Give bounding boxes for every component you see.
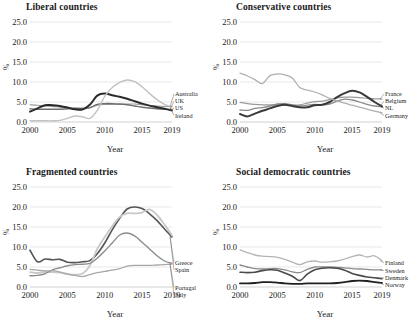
y-tick-label: 5.0 — [16, 262, 27, 272]
legend-label-italy: Italy — [175, 291, 187, 298]
y-tick-label: 15.0 — [222, 222, 237, 232]
y-tick-label: 5.0 — [226, 97, 237, 107]
chart-panel-3: Fragmented countries%Year0.05.010.015.02… — [0, 165, 210, 330]
x-tick-label: 2010 — [306, 290, 323, 300]
x-tick-label: 2000 — [232, 125, 249, 135]
series-line-norway — [240, 281, 382, 284]
legend-label-uk: UK — [175, 97, 184, 104]
x-tick-label: 2000 — [22, 125, 39, 135]
x-tick-label: 2019 — [164, 125, 181, 135]
y-tick-label: 10.0 — [222, 77, 237, 87]
series-line-ireland — [30, 80, 172, 121]
legend-label-spain: Spain — [175, 266, 189, 273]
x-tick-label: 2000 — [22, 290, 39, 300]
series-line-finland — [240, 250, 382, 265]
y-tick-label: 25.0 — [222, 17, 237, 27]
x-tick-label: 2015 — [344, 125, 361, 135]
y-tick-label: 25.0 — [222, 182, 237, 192]
y-tick-label: 25.0 — [12, 182, 27, 192]
plot-area: 0.05.010.015.020.025.0200020052010201520… — [210, 165, 420, 330]
series-line-nl — [240, 91, 382, 117]
y-tick-label: 5.0 — [226, 262, 237, 272]
x-tick-label: 2015 — [344, 290, 361, 300]
y-tick-label: 20.0 — [12, 202, 27, 212]
y-tick-label: 10.0 — [12, 77, 27, 87]
legend-label-finland: Finland — [385, 259, 405, 266]
y-tick-label: 20.0 — [222, 37, 237, 47]
x-tick-label: 2005 — [269, 125, 286, 135]
legend-label-us: US — [175, 104, 183, 111]
legend-label-norway: Norway — [385, 281, 406, 288]
x-tick-label: 2015 — [134, 125, 151, 135]
x-tick-label: 2010 — [96, 290, 113, 300]
chart-panel-4: Social democratic countries%Year0.05.010… — [210, 165, 420, 330]
y-tick-label: 10.0 — [222, 242, 237, 252]
y-tick-label: 5.0 — [16, 97, 27, 107]
y-tick-label: 15.0 — [12, 222, 27, 232]
y-tick-label: 15.0 — [222, 57, 237, 67]
x-tick-label: 2015 — [134, 290, 151, 300]
y-tick-label: 20.0 — [222, 202, 237, 212]
series-line-italy — [30, 264, 172, 276]
legend-label-greece: Greece — [175, 259, 193, 266]
plot-area: 0.05.010.015.020.025.0200020052010201520… — [0, 165, 210, 330]
legend-label-ireland: Ireland — [175, 112, 193, 119]
x-tick-label: 2005 — [269, 290, 286, 300]
x-tick-label: 2010 — [306, 125, 323, 135]
x-tick-label: 2005 — [59, 290, 76, 300]
x-tick-label: 2000 — [232, 290, 249, 300]
legend-label-germany: Germany — [385, 112, 409, 119]
y-tick-label: 25.0 — [12, 17, 27, 27]
y-tick-label: 20.0 — [12, 37, 27, 47]
legend-label-belgium: Belgium — [385, 97, 406, 104]
legend-label-nl: NL — [385, 104, 393, 111]
x-tick-label: 2005 — [59, 125, 76, 135]
legend-leader-line — [380, 94, 384, 99]
chart-panel-1: Liberal countries%Year0.05.010.015.020.0… — [0, 0, 210, 165]
plot-area: 0.05.010.015.020.025.0200020052010201520… — [0, 0, 210, 165]
legend-label-sweden: Sweden — [385, 267, 405, 274]
x-tick-label: 2019 — [374, 125, 391, 135]
legend-label-australia: Australia — [175, 90, 198, 97]
chart-panel-2: Conservative countries%Year0.05.010.015.… — [210, 0, 420, 165]
legend-label-denmark: Denmark — [385, 274, 409, 281]
x-tick-label: 2010 — [96, 125, 113, 135]
chart-grid: Liberal countries%Year0.05.010.015.020.0… — [0, 0, 420, 330]
y-tick-label: 15.0 — [12, 57, 27, 67]
series-line-france — [240, 97, 382, 105]
legend-label-france: France — [385, 90, 402, 97]
series-line-portugal — [30, 233, 172, 276]
y-tick-label: 10.0 — [12, 242, 27, 252]
x-tick-label: 2019 — [374, 290, 391, 300]
plot-area: 0.05.010.015.020.025.0200020052010201520… — [210, 0, 420, 165]
legend-label-portugal: Portugal — [175, 284, 196, 291]
series-line-denmark — [240, 268, 382, 281]
